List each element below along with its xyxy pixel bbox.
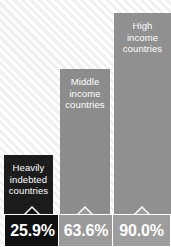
bar-middle-income: Middle income countries — [60, 69, 110, 214]
value-box-high-income: 90.0% — [112, 214, 171, 247]
value-box-heavily-indebted: 25.9% — [4, 214, 61, 247]
bar-label-middle-income: Middle income countries — [65, 69, 104, 214]
bar-label-high-income: High income countries — [123, 13, 162, 214]
value-box-middle-income: 63.6% — [58, 214, 114, 247]
value-label-middle-income: 63.6% — [64, 223, 108, 239]
value-label-high-income: 90.0% — [119, 223, 163, 239]
value-label-heavily-indebted: 25.9% — [10, 223, 54, 239]
bar-chart: Heavily indebted countries 25.9% Middle … — [0, 0, 171, 247]
bar-high-income: High income countries — [114, 13, 171, 214]
